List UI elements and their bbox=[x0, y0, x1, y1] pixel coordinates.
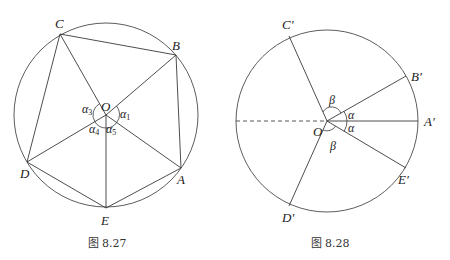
vertex-label-b-prime: B′ bbox=[411, 69, 422, 84]
angle-label-beta-bottom: β bbox=[329, 139, 336, 153]
vertex-label-e: E bbox=[100, 213, 109, 228]
segment-oa bbox=[106, 115, 181, 168]
segment-oc-prime bbox=[289, 36, 327, 121]
angle-label-alpha-bottom: α bbox=[348, 121, 355, 135]
angle-arc-alpha-top bbox=[344, 111, 347, 121]
segment-oe-prime bbox=[327, 121, 406, 168]
segment-ob-prime bbox=[327, 76, 406, 121]
vertex-label-a-prime: A′ bbox=[423, 114, 435, 129]
figure-caption: 图 8.27 bbox=[88, 237, 127, 250]
figure-caption: 图 8.28 bbox=[311, 237, 350, 250]
pentagon-abcde bbox=[27, 34, 181, 208]
angle-label-alpha1: α1 bbox=[120, 107, 130, 122]
vertex-label-b: B bbox=[172, 38, 180, 53]
figure-8-28: C′ B′ A′ E′ D′ O β α α β 图 8.28 bbox=[236, 17, 435, 250]
angle-arc-alpha-bottom bbox=[344, 121, 347, 131]
angle-label-alpha-top: α bbox=[348, 108, 355, 122]
vertex-label-c-prime: C′ bbox=[282, 17, 294, 32]
vertex-label-c: C bbox=[55, 16, 64, 31]
vertex-label-d: D bbox=[19, 166, 30, 181]
vertex-label-a: A bbox=[176, 172, 185, 187]
angle-label-alpha4: α4 bbox=[89, 122, 99, 137]
angle-arc-beta-top bbox=[323, 107, 341, 113]
angle-label-beta-top: β bbox=[328, 93, 335, 107]
figure-8-27: C B A D E O α1 α3 α4 α5 图 8.27 bbox=[14, 16, 198, 250]
center-label-o: O bbox=[101, 99, 111, 114]
vertex-label-d-prime: D′ bbox=[281, 210, 294, 225]
vertex-label-e-prime: E′ bbox=[397, 172, 409, 187]
center-label-o: O bbox=[313, 124, 323, 139]
angle-label-alpha3: α3 bbox=[82, 102, 92, 117]
